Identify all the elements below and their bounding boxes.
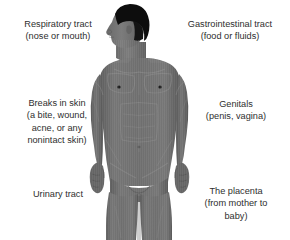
label-genitals: Genitals (penis, vagina) (186, 98, 286, 123)
label-breaks-line4: nonintact skin) (4, 134, 110, 146)
label-respiratory-tract: Respiratory tract (nose or mouth) (6, 18, 110, 43)
label-genitals-line2: (penis, vagina) (186, 110, 286, 122)
label-breaks-line1: Breaks in skin (4, 97, 110, 109)
label-urinary-line1: Urinary tract (12, 188, 104, 200)
label-gi-line2: (food or fluids) (172, 30, 288, 42)
label-gi-line1: Gastrointestinal tract (172, 18, 288, 30)
label-breaks-in-skin: Breaks in skin (a bite, wound, acne, or … (4, 97, 110, 147)
label-breaks-line2: (a bite, wound, (4, 109, 110, 121)
label-respiratory-line2: (nose or mouth) (6, 30, 110, 42)
label-breaks-line3: acne, or any (4, 122, 110, 134)
label-placenta-line1: The placenta (186, 185, 286, 197)
label-placenta-line3: baby) (186, 210, 286, 222)
label-placenta-line2: (from mother to (186, 197, 286, 209)
label-respiratory-line1: Respiratory tract (6, 18, 110, 30)
label-placenta: The placenta (from mother to baby) (186, 185, 286, 222)
label-gastrointestinal-tract: Gastrointestinal tract (food or fluids) (172, 18, 288, 43)
label-urinary-tract: Urinary tract (12, 188, 104, 200)
label-genitals-line1: Genitals (186, 98, 286, 110)
diagram-canvas: Respiratory tract (nose or mouth) Gastro… (0, 0, 290, 240)
